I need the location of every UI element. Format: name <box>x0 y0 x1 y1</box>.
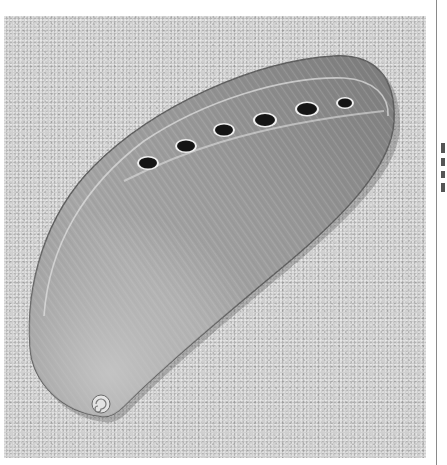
cropped-text-fragment <box>441 171 445 178</box>
cropped-text-fragment <box>441 158 445 166</box>
cropped-text-fragment <box>441 183 445 192</box>
apex-spiral <box>92 395 110 413</box>
cropped-text-fragment <box>441 143 445 153</box>
abalone-shell-photo <box>4 16 426 458</box>
page-divider-rule <box>436 0 437 465</box>
shell-illustration <box>4 16 426 458</box>
